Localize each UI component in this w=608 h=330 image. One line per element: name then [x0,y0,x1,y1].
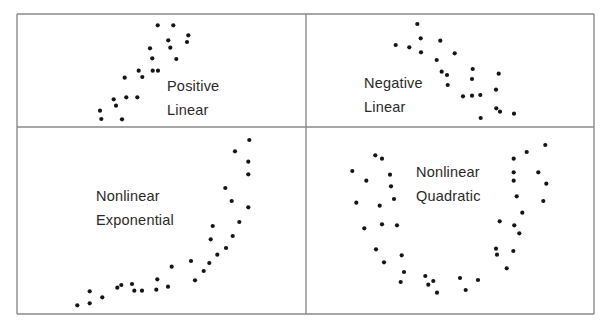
data-point [88,301,92,305]
label-line2: Quadratic [416,184,481,208]
data-point [497,72,501,76]
data-point [140,75,144,79]
label-positive-linear: Positive Linear [167,74,219,122]
label-nonlinear-exponential: Nonlinear Exponential [96,184,174,232]
data-point [211,224,215,228]
data-point [233,149,237,153]
data-point [478,93,482,97]
data-point [498,110,502,114]
data-point [114,104,118,108]
data-point [517,231,521,235]
data-point [494,247,498,251]
data-point [148,46,152,50]
data-point [120,117,124,121]
data-point [453,51,457,55]
data-point [464,288,468,292]
data-point [470,94,474,98]
data-point [119,283,123,287]
data-point [458,276,462,280]
data-point [388,173,392,177]
data-point [543,143,547,147]
data-point [380,157,384,161]
data-point [224,246,228,250]
data-point [382,260,386,264]
data-point [445,73,449,77]
data-point [525,150,529,154]
data-point [98,109,102,113]
data-point [431,279,435,283]
data-point [156,69,160,73]
data-point [402,270,406,274]
data-point [99,117,103,121]
data-point [498,219,502,223]
data-point [189,259,193,263]
data-point [88,289,92,293]
data-point [112,97,116,101]
data-point [419,36,423,40]
data-point [536,170,540,174]
label-line2: Linear [167,98,219,122]
data-point [520,211,524,215]
data-point [423,274,427,278]
data-point [479,116,483,120]
data-point [495,253,499,257]
data-point [168,46,172,50]
data-point [171,23,175,27]
data-point [202,269,206,273]
data-point [515,194,519,198]
data-point [170,265,174,269]
data-point [400,253,404,257]
data-point [223,186,227,190]
data-point [378,204,382,208]
data-point [246,160,250,164]
data-point [512,223,516,227]
data-point [230,199,234,203]
data-point [209,237,213,241]
data-point [419,50,423,54]
data-point [215,253,219,257]
data-point [415,22,419,26]
data-point [137,69,141,73]
data-point [494,106,498,110]
data-point [154,288,158,292]
data-point [124,95,128,99]
data-point [374,247,378,251]
data-point [380,222,384,226]
data-point [151,69,155,73]
data-point [193,278,197,282]
data-point [512,112,516,116]
label-negative-linear: Negative Linear [364,71,423,119]
data-point [166,285,170,289]
label-line2: Exponential [96,208,174,232]
data-point [471,67,475,71]
data-point [511,249,515,253]
data-point [247,138,251,142]
data-point [231,234,235,238]
data-point [362,226,366,230]
data-point [544,182,548,186]
label-nonlinear-quadratic: Nonlinear Quadratic [416,160,481,208]
data-point [186,33,190,37]
data-point [512,170,516,174]
data-point [140,289,144,293]
data-point [132,289,136,293]
label-line2: Linear [364,95,423,119]
data-point [446,83,450,87]
data-point [115,286,119,290]
data-point [156,23,160,27]
data-point [435,58,439,62]
data-point [174,57,178,61]
data-point [354,201,358,205]
data-point [476,278,480,282]
label-line1: Nonlinear [416,160,481,184]
data-point [185,40,189,44]
data-point [350,169,354,173]
data-point [246,172,250,176]
data-point [395,223,399,227]
data-point [440,70,444,74]
scatter-pattern-figure [0,0,608,330]
label-line1: Negative [364,71,423,95]
data-point [123,76,127,80]
data-point [394,43,398,47]
data-point [150,56,154,60]
